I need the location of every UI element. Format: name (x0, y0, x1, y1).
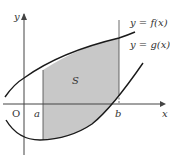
y-axis-arrow-icon (21, 13, 27, 20)
origin-label: O (12, 108, 20, 119)
shaded-region-s (43, 38, 119, 140)
curve-g-label: y = g(x) (129, 39, 170, 50)
curve-f-label: y = f(x) (129, 17, 168, 28)
x-axis-arrow-icon (160, 101, 166, 107)
diagram-canvas: y x O a b S y = f(x) y = g(x) (0, 0, 170, 158)
region-s-label: S (72, 75, 79, 86)
bound-a-label: a (34, 108, 40, 119)
y-axis-label: y (13, 11, 20, 22)
area-between-curves-diagram: y x O a b S y = f(x) y = g(x) (0, 0, 170, 158)
x-axis-label: x (162, 108, 168, 119)
bound-b-label: b (115, 108, 121, 119)
